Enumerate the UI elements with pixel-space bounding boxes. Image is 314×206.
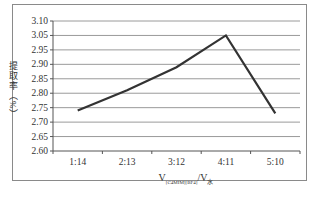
y-tick-label: 2.95 [31,45,48,55]
x-tick-label: 3:12 [168,157,185,167]
y-tick-label: 2.70 [31,117,48,127]
line-chart: 3.103.052.952.902.852.802.752.702.652.60… [0,0,314,206]
y-tick-label: 2.80 [31,88,48,98]
y-tick-label: 2.60 [31,146,48,156]
y-tick-label: 3.05 [31,30,48,40]
y-tick-label: 2.65 [31,132,48,142]
x-tick-label: 4:11 [218,157,235,167]
y-tick-label: 2.90 [31,59,48,69]
y-tick-label: 3.10 [31,16,48,26]
x-tick-label: 5:10 [267,157,284,167]
data-series-line [78,35,276,113]
x-tick-label: 2:13 [119,157,136,167]
x-tick-label: 1:14 [69,157,86,167]
y-tick-label: 2.75 [31,103,48,113]
y-tick-label: 2.85 [31,74,48,84]
x-axis-label: V[C4MIM][BF4]/V水 [159,172,214,185]
